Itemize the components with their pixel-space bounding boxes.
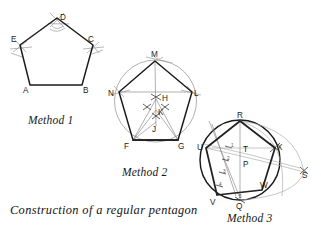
vertex-label-V: V [210, 198, 216, 207]
vertex-label-U: U [197, 143, 203, 152]
point-label-J: J [152, 125, 156, 134]
vertex-label-A: A [23, 86, 29, 95]
method-3-line-U-to-S [206, 148, 304, 172]
scale-division-1: 1 [231, 143, 234, 148]
scale-division-5: 5 [239, 194, 242, 199]
point-label-S: S [302, 171, 308, 180]
method-1-group [10, 13, 104, 85]
method-1-pentagon [20, 18, 93, 85]
method-2-label: Method 2 [121, 166, 167, 178]
point-label-Q: Q [236, 202, 242, 211]
point-label-T: T [243, 145, 248, 154]
method-3-group [200, 120, 308, 203]
vertex-label-W: W [260, 181, 268, 190]
point-label-H: H [162, 94, 168, 103]
pentagon-construction-figure: A B C D E Method 1 [0, 0, 321, 228]
vertex-label-E: E [11, 35, 17, 44]
vertex-label-X: X [277, 143, 283, 152]
point-label-K: K [158, 108, 164, 117]
point-label-P: P [243, 160, 249, 169]
vertex-label-D: D [60, 13, 66, 22]
vertex-label-C: C [88, 35, 94, 44]
vertex-label-G: G [178, 142, 184, 151]
vertex-label-B: B [83, 86, 89, 95]
vertex-label-R: R [237, 111, 243, 120]
scale-division-4: 4 [219, 182, 222, 187]
vertex-label-M: M [151, 50, 158, 59]
method-3-line-U-to-S-2 [204, 144, 300, 168]
vertex-label-F: F [124, 142, 129, 151]
figure-canvas: A B C D E Method 1 [0, 0, 321, 228]
scale-division-3: 3 [223, 169, 226, 174]
method-3-label: Method 3 [226, 212, 272, 224]
method-1-label: Method 1 [27, 114, 73, 126]
method-3-arc-Q-to-S [240, 172, 304, 200]
figure-caption: Construction of a regular pentagon [10, 203, 198, 217]
scale-division-2: 2 [227, 156, 230, 161]
vertex-label-N: N [108, 89, 114, 98]
vertex-label-L: L [194, 89, 199, 98]
